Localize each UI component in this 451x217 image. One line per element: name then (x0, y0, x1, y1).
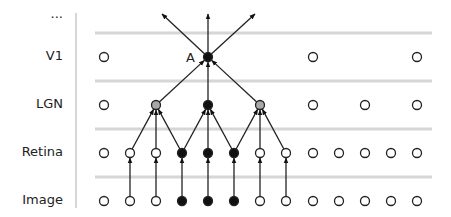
image-node-inactive (361, 197, 370, 206)
retina-node-inactive (361, 149, 370, 158)
v1-node-active (204, 53, 213, 62)
retina-node-inactive (126, 149, 135, 158)
retina-node-inactive (309, 149, 318, 158)
v1-node-inactive (309, 53, 318, 62)
retina-node-active (230, 149, 239, 158)
image-node-inactive (282, 197, 291, 206)
retina-node-inactive (413, 149, 422, 158)
retina-node-inactive (387, 149, 396, 158)
image-node-inactive (100, 197, 109, 206)
image-node-active (230, 197, 239, 206)
image-node-inactive (256, 197, 265, 206)
retina-node-active (178, 149, 187, 158)
lgn-node-partial (152, 101, 161, 110)
retina-node-inactive (335, 149, 344, 158)
retina-node-inactive (152, 149, 161, 158)
retina-node-inactive (282, 149, 291, 158)
retina-node-active (204, 149, 213, 158)
lgn-node-inactive (361, 101, 370, 110)
lgn-node-inactive (100, 101, 109, 110)
v1-node-inactive (100, 53, 109, 62)
image-node-active (178, 197, 187, 206)
retina-node-inactive (100, 149, 109, 158)
v1-node-inactive (413, 53, 422, 62)
image-node-inactive (126, 197, 135, 206)
lgn-node-active (204, 101, 213, 110)
image-node-inactive (413, 197, 422, 206)
image-node-inactive (335, 197, 344, 206)
node-label-a: A (186, 50, 195, 65)
lgn-node-inactive (309, 101, 318, 110)
image-node-inactive (152, 197, 161, 206)
lgn-node-inactive (413, 101, 422, 110)
image-node-inactive (387, 197, 396, 206)
image-node-active (204, 197, 213, 206)
network-diagram: A (0, 0, 451, 217)
retina-node-inactive (256, 149, 265, 158)
image-node-inactive (309, 197, 318, 206)
lgn-node-partial (256, 101, 265, 110)
